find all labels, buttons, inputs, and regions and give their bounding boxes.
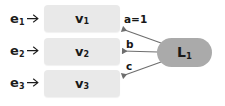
vertex-label-v2: v2	[44, 44, 120, 59]
vertex-box-v2: v2	[44, 38, 120, 65]
edge-label-a: a=1	[124, 14, 147, 25]
source-base-e1: e	[10, 11, 19, 26]
arrow-right-icon	[27, 13, 41, 23]
arrow-right-icon	[27, 45, 41, 55]
edge-label-b: b	[126, 39, 134, 50]
edge-line-b	[122, 51, 158, 52]
arrow-right-icon	[27, 77, 41, 87]
edge-label-c: c	[126, 61, 132, 72]
vertex-label-v1: v1	[44, 11, 120, 26]
source-base-e3: e	[10, 75, 19, 90]
source-label-e2: e2	[10, 44, 25, 59]
vertex-sub-v3: 3	[83, 82, 89, 91]
aggregation-node-L1: L1	[157, 38, 212, 67]
source-sub-e1: 1	[19, 18, 25, 27]
vertex-label-v3: v3	[44, 76, 120, 91]
source-label-e1: e1	[10, 12, 25, 27]
source-sub-e2: 2	[19, 50, 25, 59]
node-base-L1: L	[177, 44, 186, 60]
source-base-e2: e	[10, 43, 19, 58]
source-sub-e3: 3	[19, 82, 25, 91]
vertex-box-v3: v3	[44, 70, 120, 97]
vertex-sub-v2: 2	[83, 50, 89, 59]
vertex-sub-v1: 1	[83, 17, 89, 26]
aggregation-node-label: L1	[157, 45, 212, 60]
source-label-e3: e3	[10, 76, 25, 91]
diagram-canvas: e1 v1 a=1 e2 v2 b e3 v3 c L1	[0, 0, 225, 106]
vertex-box-v1: v1	[44, 5, 120, 32]
node-sub-L1: 1	[186, 51, 192, 61]
